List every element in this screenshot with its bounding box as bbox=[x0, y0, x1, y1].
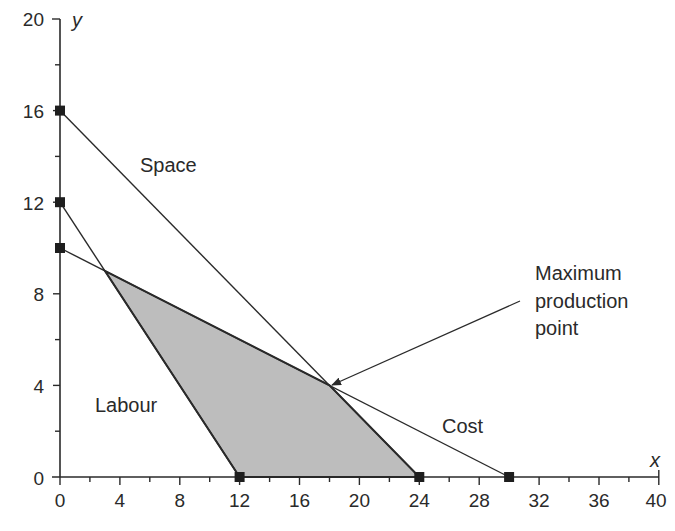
space-label: Space bbox=[140, 154, 197, 176]
cost-label: Cost bbox=[442, 415, 484, 437]
y-tick-labels: 0 4 8 12 16 20 bbox=[23, 9, 45, 489]
svg-text:Maximum: Maximum bbox=[535, 262, 622, 284]
svg-text:0: 0 bbox=[33, 468, 44, 489]
svg-text:20: 20 bbox=[23, 9, 44, 30]
svg-text:32: 32 bbox=[529, 490, 550, 511]
svg-text:24: 24 bbox=[409, 490, 431, 511]
x-axis-label: x bbox=[649, 449, 661, 471]
svg-text:point: point bbox=[535, 317, 579, 339]
feasible-region bbox=[105, 271, 419, 477]
svg-text:production: production bbox=[535, 290, 628, 312]
max-production-annotation: Maximum production point bbox=[332, 262, 628, 385]
y-axis-label: y bbox=[70, 9, 83, 31]
svg-text:16: 16 bbox=[23, 101, 44, 122]
svg-text:36: 36 bbox=[588, 490, 609, 511]
svg-text:12: 12 bbox=[229, 490, 250, 511]
x-tick-labels: 0 4 8 12 16 20 24 28 32 36 40 bbox=[55, 490, 667, 511]
svg-text:8: 8 bbox=[33, 284, 44, 305]
svg-text:4: 4 bbox=[115, 490, 126, 511]
labour-label: Labour bbox=[95, 394, 158, 416]
svg-text:0: 0 bbox=[55, 490, 66, 511]
linear-programming-chart: 0 4 8 12 16 20 0 4 8 12 16 20 24 28 32 3… bbox=[0, 0, 675, 531]
svg-text:20: 20 bbox=[349, 490, 370, 511]
svg-text:12: 12 bbox=[23, 193, 44, 214]
svg-text:28: 28 bbox=[469, 490, 490, 511]
arrow bbox=[332, 301, 520, 385]
svg-text:16: 16 bbox=[289, 490, 310, 511]
svg-text:4: 4 bbox=[33, 376, 44, 397]
svg-text:40: 40 bbox=[645, 490, 666, 511]
svg-text:8: 8 bbox=[175, 490, 186, 511]
